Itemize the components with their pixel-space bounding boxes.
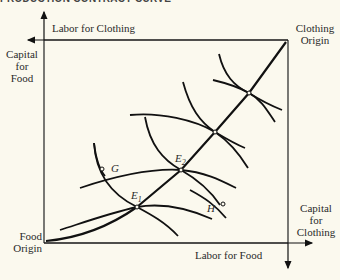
- label-point-E1: E1: [131, 189, 142, 206]
- label-point-E2: E2: [175, 152, 186, 169]
- point-G: [100, 167, 104, 171]
- clothing-isoquants: [60, 80, 282, 230]
- label-capital-for-food: Capital for Food: [2, 48, 42, 84]
- label-point-G: G: [111, 162, 119, 174]
- edgeworth-box-diagram: [0, 0, 340, 280]
- box-frame: [44, 40, 288, 243]
- label-food-origin: Food Origin: [0, 230, 42, 254]
- point-H: [221, 202, 225, 206]
- label-point-H: H: [207, 202, 215, 214]
- label-labor-for-clothing: Labor for Clothing: [52, 22, 135, 34]
- label-clothing-origin: Clothing Origin: [290, 22, 340, 46]
- label-labor-for-food: Labor for Food: [195, 249, 262, 261]
- point-E3: [213, 130, 217, 134]
- label-capital-for-clothing: Capital for Clothing: [292, 202, 340, 238]
- contract-curve: [46, 42, 286, 241]
- point-E4: [247, 91, 251, 95]
